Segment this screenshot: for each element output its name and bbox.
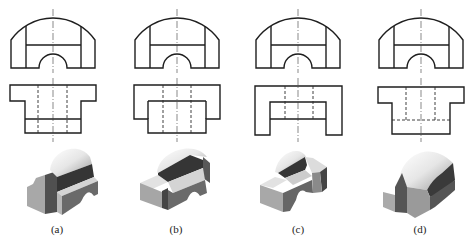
panel-d: (d) bbox=[378, 9, 464, 236]
top-view-a bbox=[10, 78, 96, 142]
panel-a: (a) bbox=[10, 9, 98, 236]
panel-b: (b) bbox=[134, 9, 220, 236]
front-view-a bbox=[11, 9, 95, 73]
engineering-drawing-figure: (a) (b) bbox=[0, 0, 473, 247]
caption-d: (d) bbox=[414, 223, 427, 236]
front-view-d bbox=[379, 9, 463, 73]
isometric-view-b bbox=[140, 148, 210, 210]
caption-c: (c) bbox=[292, 223, 305, 236]
isometric-view-c bbox=[260, 151, 327, 212]
front-view-b bbox=[135, 9, 219, 73]
panel-c: (c) bbox=[255, 9, 342, 236]
isometric-view-d bbox=[383, 151, 455, 218]
caption-a: (a) bbox=[51, 223, 64, 236]
top-view-b bbox=[134, 78, 220, 142]
front-view-c bbox=[256, 9, 340, 73]
top-view-d bbox=[378, 78, 464, 142]
isometric-view-a bbox=[27, 149, 98, 215]
caption-b: (b) bbox=[170, 223, 183, 236]
top-view-c bbox=[255, 78, 342, 142]
